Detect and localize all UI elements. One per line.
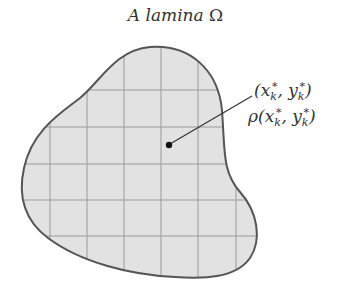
density-label: ρ(xk*, yk*) (248, 106, 316, 129)
lamina-diagram (0, 0, 351, 297)
point-coordinates-label: (xk*, yk*) (254, 80, 312, 103)
sample-point (166, 142, 172, 148)
